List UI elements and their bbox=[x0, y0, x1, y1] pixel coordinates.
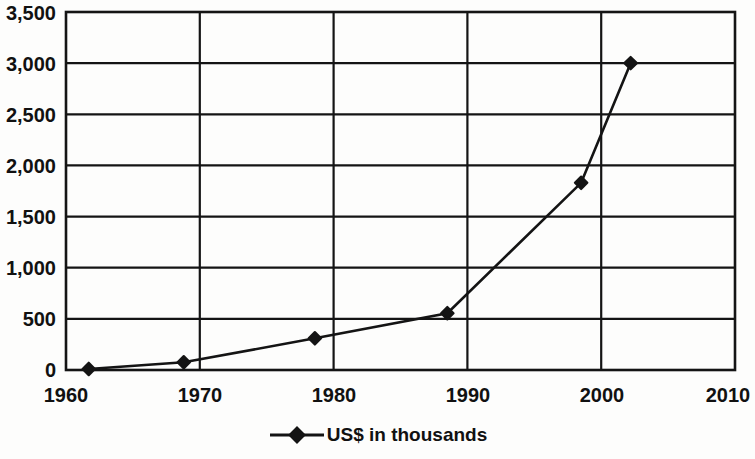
legend-label-us-dollars: US$ in thousands bbox=[327, 424, 487, 446]
x-tick-label-2000: 2000 bbox=[580, 384, 625, 407]
y-tick-label-1500: 1,500 bbox=[0, 206, 56, 229]
data-point-marker bbox=[83, 363, 95, 375]
horizontal-gridlines bbox=[66, 63, 735, 319]
y-tick-label-2000: 2,000 bbox=[0, 155, 56, 178]
y-tick-label-0: 0 bbox=[0, 359, 56, 382]
y-tick-label-3000: 3,000 bbox=[0, 53, 56, 76]
y-tick-label-2500: 2,500 bbox=[0, 104, 56, 127]
line-chart-figure: 3,500 3,000 2,500 2,000 1,500 1,000 500 … bbox=[0, 0, 755, 459]
data-point-marker bbox=[624, 57, 636, 69]
x-tick-label-1970: 1970 bbox=[178, 384, 223, 407]
y-tick-label-3500: 3,500 bbox=[0, 2, 56, 25]
data-point-marker bbox=[309, 332, 321, 344]
chart-plot-area bbox=[0, 0, 755, 459]
chart-legend: US$ in thousands bbox=[0, 424, 755, 446]
chart-page: 3,500 3,000 2,500 2,000 1,500 1,000 500 … bbox=[0, 0, 755, 459]
data-point-marker bbox=[178, 356, 190, 368]
x-tick-label-1980: 1980 bbox=[312, 384, 357, 407]
legend-diamond-line-marker-icon bbox=[268, 425, 326, 445]
y-tick-label-500: 500 bbox=[0, 308, 56, 331]
x-tick-label-2010: 2010 bbox=[706, 384, 751, 407]
x-tick-label-1990: 1990 bbox=[446, 384, 491, 407]
x-tick-label-1960: 1960 bbox=[44, 384, 89, 407]
vertical-gridlines bbox=[200, 12, 601, 370]
y-tick-label-1000: 1,000 bbox=[0, 257, 56, 280]
